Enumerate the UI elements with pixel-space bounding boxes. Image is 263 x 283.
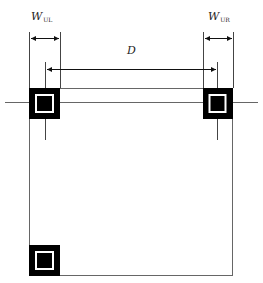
finder-pattern-upper-right [203, 88, 233, 119]
d-dimension [46, 62, 218, 140]
distance-label: D [126, 44, 136, 57]
finder-pattern-diagram: WUL WUR D [0, 0, 263, 283]
w-ul-label: WUL [31, 10, 52, 23]
finder-pattern-lower-left [29, 245, 60, 276]
finder-pattern-upper-left [29, 88, 60, 140]
w-ur-dimension [204, 32, 234, 88]
w-ur-label: WUR [208, 10, 230, 23]
